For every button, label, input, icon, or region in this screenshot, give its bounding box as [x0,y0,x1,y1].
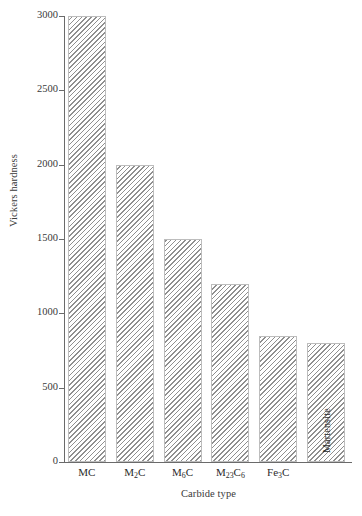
bar [68,16,106,462]
bar-inner-label: Martensite [321,408,332,453]
y-axis-tick-label: 2000 [22,159,58,170]
bar [164,239,202,462]
bar-chart: Vickers hardness 05001000150020002500300… [0,0,362,516]
x-axis-title: Carbide type [65,488,352,499]
y-axis-tick-label: 3000 [22,10,58,21]
x-axis-tick-label: MC [63,466,111,479]
x-axis-tick-label: Fe3C [254,466,302,480]
y-axis-tick-label: 500 [22,382,58,393]
bar [259,336,297,462]
y-axis-tick-label: 0 [22,456,58,467]
bar [211,284,249,462]
x-axis-line [64,462,352,463]
y-axis-tick-label: 2500 [22,84,58,95]
bar: Martensite [307,343,345,462]
y-axis-tick-label: 1000 [22,307,58,318]
x-axis-tick-label: M6C [159,466,207,480]
x-axis-tick-label: M23C6 [207,466,255,480]
x-axis-tick-label: M2C [111,466,159,480]
plot-area: Martensite [65,16,352,462]
bar [116,165,154,462]
y-axis-tick-labels: 050010001500200025003000 [16,0,58,516]
x-axis-tick-labels: MCM2CM6CM23C6Fe3C [65,466,352,486]
y-axis-tick-label: 1500 [22,233,58,244]
